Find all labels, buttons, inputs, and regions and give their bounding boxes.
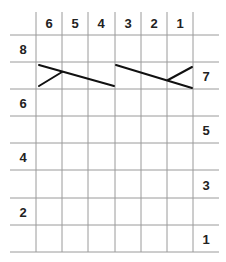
column-label: 6 (45, 16, 52, 31)
row-label: 8 (19, 42, 26, 57)
column-label: 3 (124, 16, 131, 31)
row-label: 5 (202, 123, 209, 138)
column-label: 5 (71, 16, 78, 31)
row-label: 3 (202, 178, 209, 193)
left-cross-symbol (39, 65, 114, 86)
column-label: 2 (150, 16, 157, 31)
grid-lines (10, 12, 219, 252)
row-label: 1 (202, 232, 209, 247)
knitting-chart: 6 5 4 3 2 1 8 6 4 2 7 5 3 1 (0, 0, 226, 262)
right-cross-symbol (116, 65, 192, 88)
column-label: 4 (97, 16, 105, 31)
row-label: 4 (19, 150, 27, 165)
row-label: 2 (19, 205, 26, 220)
right-row-labels: 7 5 3 1 (202, 69, 209, 247)
column-label: 1 (176, 16, 183, 31)
row-label: 7 (202, 69, 209, 84)
left-row-labels: 8 6 4 2 (19, 42, 27, 220)
row-label: 6 (19, 96, 26, 111)
